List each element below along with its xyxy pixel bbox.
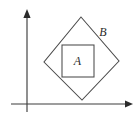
outer-diamond-shape-b [44, 17, 119, 100]
x-axis-arrowhead-icon [125, 101, 133, 108]
y-axis-arrowhead-icon [23, 9, 30, 18]
label-a: A [73, 54, 82, 68]
geometry-figure-canvas: B A [0, 0, 139, 119]
label-b: B [99, 25, 107, 39]
geometry-figure-svg: B A [0, 0, 139, 119]
